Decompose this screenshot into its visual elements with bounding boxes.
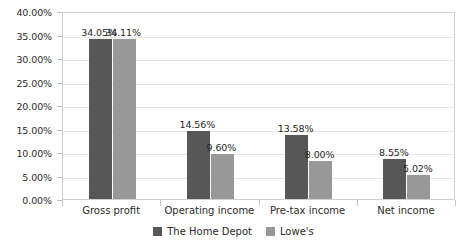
bar-group	[285, 13, 332, 199]
y-axis-tick-label: 25.00%	[16, 77, 52, 88]
legend-item: The Home Depot	[153, 226, 252, 237]
y-axis-tick-label: 20.00%	[16, 101, 52, 112]
y-axis-tick-label: 0.00%	[22, 195, 52, 206]
bar-value-label: 5.02%	[403, 163, 433, 174]
bar-value-label: 34.11%	[105, 27, 141, 38]
bar-value-label: 9.60%	[207, 142, 237, 153]
bar-group	[187, 13, 234, 199]
x-axis-category-label: Net income	[377, 205, 434, 216]
legend-item: Lowe's	[266, 226, 314, 237]
bar-group	[89, 13, 136, 199]
y-axis-tick-label: 5.00%	[22, 171, 52, 182]
y-axis-tick-label: 35.00%	[16, 30, 52, 41]
bar-value-label: 13.58%	[278, 123, 314, 134]
x-axis-category-label: Pre-tax income	[270, 205, 345, 216]
y-axis-tick-label: 40.00%	[16, 7, 52, 18]
bar-home-depot	[285, 135, 308, 199]
y-axis-tick-label: 15.00%	[16, 124, 52, 135]
x-axis-tick-mark	[455, 200, 456, 206]
chart-legend: The Home DepotLowe's	[0, 226, 467, 237]
bar-home-depot	[89, 39, 112, 199]
bar-chart: 0.00%5.00%10.00%15.00%20.00%25.00%30.00%…	[0, 0, 467, 246]
bar-lowes	[407, 175, 430, 199]
x-axis-category-label: Operating income	[164, 205, 254, 216]
legend-label: The Home Depot	[167, 226, 252, 237]
legend-swatch-icon	[153, 227, 162, 236]
x-axis-tick-mark	[62, 200, 63, 206]
y-axis-tick-label: 10.00%	[16, 148, 52, 159]
x-axis-category-label: Gross profit	[82, 205, 140, 216]
x-axis-tick-mark	[357, 200, 358, 206]
legend-label: Lowe's	[280, 226, 314, 237]
bar-lowes	[211, 154, 234, 199]
x-axis-tick-mark	[259, 200, 260, 206]
legend-swatch-icon	[266, 227, 275, 236]
bar-home-depot	[187, 131, 210, 199]
bar-value-label: 8.55%	[379, 147, 409, 158]
x-axis-tick-mark	[160, 200, 161, 206]
y-axis-tick-label: 30.00%	[16, 54, 52, 65]
bar-value-label: 8.00%	[305, 149, 335, 160]
bar-lowes	[309, 161, 332, 199]
plot-area	[62, 12, 455, 200]
bar-lowes	[113, 39, 136, 199]
y-axis: 0.00%5.00%10.00%15.00%20.00%25.00%30.00%…	[0, 0, 57, 246]
bar-value-label: 14.56%	[180, 119, 216, 130]
